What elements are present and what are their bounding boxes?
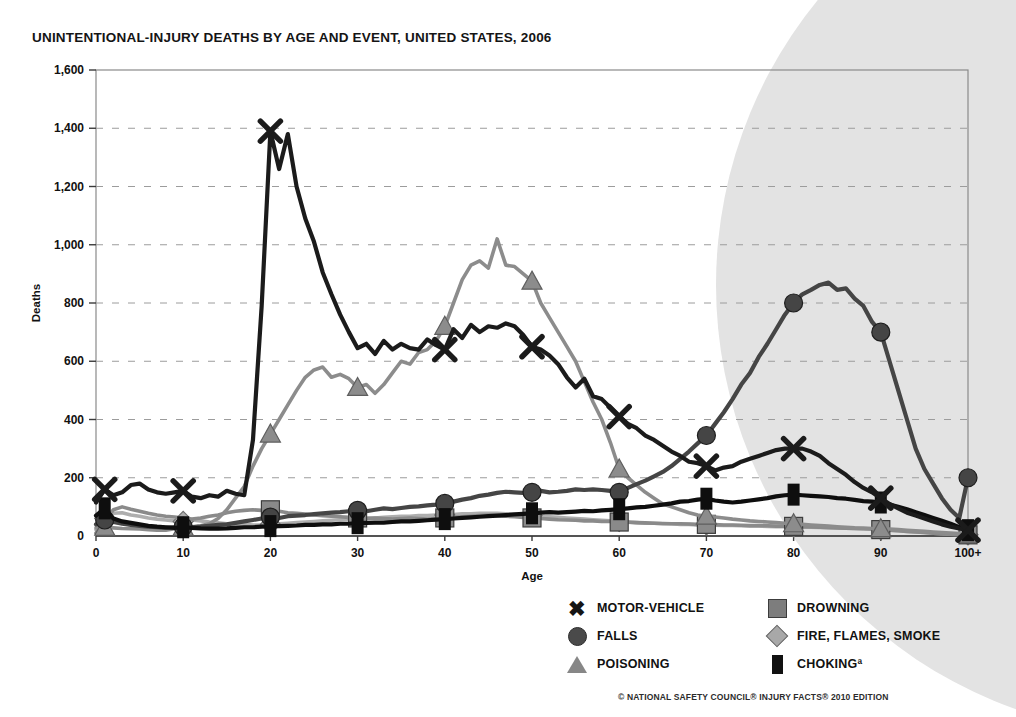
chart-page: UNINTENTIONAL-INJURY DEATHS BY AGE AND E… — [0, 0, 1016, 717]
circle-marker-icon — [872, 323, 890, 341]
legend-label: MOTOR-VEHICLE — [597, 601, 704, 615]
x-tick-label: 20 — [264, 546, 278, 560]
triangle-marker-icon — [260, 424, 280, 442]
legend-label: CHOKINGª — [797, 657, 862, 671]
legend-item-motor-vehicle[interactable]: ✖ MOTOR-VEHICLE — [566, 597, 766, 619]
chart-legend: ✖ MOTOR-VEHICLE DROWNING FALLS FIRE, FLA… — [566, 594, 1006, 678]
y-tick-label: 1,000 — [54, 238, 84, 252]
x-marker-icon — [435, 340, 455, 360]
x-axis-label: Age — [521, 570, 543, 582]
y-tick-label: 0 — [77, 529, 84, 543]
bar-marker-icon — [766, 653, 788, 675]
copyright-credit: © NATIONAL SAFETY COUNCIL® INJURY FACTS®… — [618, 692, 888, 702]
legend-item-drowning[interactable]: DROWNING — [766, 597, 1006, 619]
bar-marker-icon — [99, 497, 111, 519]
legend-item-poisoning[interactable]: POISONING — [566, 653, 766, 675]
triangle-marker-icon — [566, 653, 588, 675]
x-tick-label: 10 — [177, 546, 191, 560]
y-tick-label: 1,200 — [54, 180, 84, 194]
y-tick-label: 400 — [64, 413, 84, 427]
y-tick-label: 800 — [64, 296, 84, 310]
y-axis-label: Deaths — [30, 284, 42, 322]
x-marker-icon — [609, 407, 629, 427]
legend-item-choking[interactable]: CHOKINGª — [766, 653, 1006, 675]
x-tick-label: 70 — [700, 546, 714, 560]
diamond-marker-icon — [766, 625, 788, 647]
legend-label: FALLS — [597, 629, 638, 643]
square-marker-icon — [766, 597, 788, 619]
bar-marker-icon — [177, 516, 189, 538]
y-tick-label: 1,600 — [54, 63, 84, 77]
y-tick-label: 600 — [64, 354, 84, 368]
x-tick-label: 60 — [613, 546, 627, 560]
x-marker-icon — [522, 337, 542, 357]
triangle-marker-icon — [609, 459, 629, 477]
circle-marker-icon — [523, 483, 541, 501]
legend-label: FIRE, FLAMES, SMOKE — [797, 629, 940, 643]
x-tick-label: 90 — [874, 546, 888, 560]
series-line — [96, 131, 968, 530]
legend-item-fire-flames-smoke[interactable]: FIRE, FLAMES, SMOKE — [766, 625, 1006, 647]
x-tick-label: 50 — [525, 546, 539, 560]
circle-marker-icon — [959, 469, 977, 487]
x-marker-icon: ✖ — [566, 597, 588, 619]
legend-label: POISONING — [597, 657, 670, 671]
x-marker-icon — [95, 479, 115, 499]
x-tick-label: 40 — [438, 546, 452, 560]
y-tick-label: 1,400 — [54, 121, 84, 135]
bar-marker-icon — [526, 502, 538, 524]
bar-marker-icon — [352, 512, 364, 534]
circle-marker-icon — [785, 294, 803, 312]
legend-item-falls[interactable]: FALLS — [566, 625, 766, 647]
x-marker-icon — [696, 456, 716, 476]
bar-marker-icon — [700, 488, 712, 510]
legend-label: DROWNING — [797, 601, 869, 615]
bar-marker-icon — [264, 515, 276, 537]
circle-marker-icon — [697, 427, 715, 445]
x-tick-label: 80 — [787, 546, 801, 560]
y-tick-label: 200 — [64, 471, 84, 485]
bar-marker-icon — [613, 498, 625, 520]
x-tick-label: 100+ — [954, 546, 981, 560]
x-tick-label: 30 — [351, 546, 365, 560]
x-tick-label: 0 — [93, 546, 100, 560]
circle-marker-icon — [566, 625, 588, 647]
bar-marker-icon — [788, 484, 800, 506]
bar-marker-icon — [439, 508, 451, 530]
